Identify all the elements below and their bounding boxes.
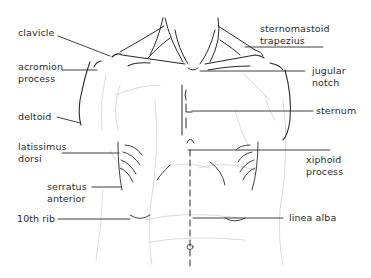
neck-drawing [120, 18, 263, 70]
anatomy-diagram: clavicle acromion process deltoid latiss… [0, 0, 371, 278]
label-clavicle: clavicle [18, 27, 54, 39]
sternum-drawing [182, 85, 194, 143]
label-sternomastoid-trapezius: sternomastoid trapezius [260, 23, 330, 46]
serratus-left [118, 142, 150, 219]
label-latissimus-dorsi: latissimus dorsi [18, 141, 67, 164]
rib-arcs [157, 162, 225, 185]
label-deltoid: deltoid [18, 111, 51, 123]
label-sternum: sternum [316, 105, 356, 117]
label-xiphoid-process: xiphoid process [306, 154, 343, 177]
label-10th-rib: 10th rib [17, 213, 55, 225]
label-serratus-anterior: serratus anterior [47, 181, 87, 204]
label-linea-alba: linea alba [289, 212, 336, 224]
label-acromion-process: acromion process [18, 61, 63, 84]
label-jugular-notch: jugular notch [312, 65, 346, 88]
serratus-right [225, 142, 258, 221]
